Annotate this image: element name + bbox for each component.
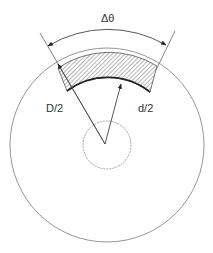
angle-arc (48, 29, 166, 46)
angle-label: Δθ (101, 12, 114, 24)
inner-radius-label: d/2 (138, 102, 153, 114)
sector-diagram: Δθ D/2 d/2 (0, 0, 213, 253)
outer-radius-label: D/2 (46, 102, 63, 114)
inner-circle (83, 121, 131, 169)
inner-radius-arrow (105, 84, 121, 144)
right-radial-line (156, 31, 175, 70)
